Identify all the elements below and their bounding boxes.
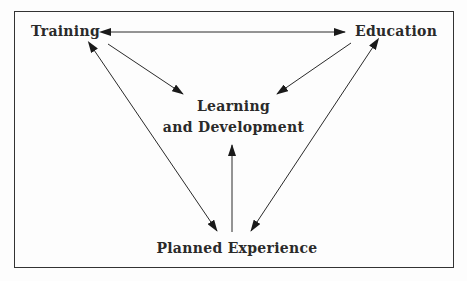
arrow-education-planned <box>251 47 373 231</box>
node-learning-line2: and Development <box>0 119 467 135</box>
node-planned-experience: Planned Experience <box>0 240 467 256</box>
node-education: Education <box>355 23 437 39</box>
node-training: Training <box>31 23 100 39</box>
arrow-training-planned <box>94 50 217 231</box>
arrow-education-learning <box>277 43 351 94</box>
arrows-layer <box>0 0 467 281</box>
node-learning-line1: Learning <box>0 98 467 114</box>
